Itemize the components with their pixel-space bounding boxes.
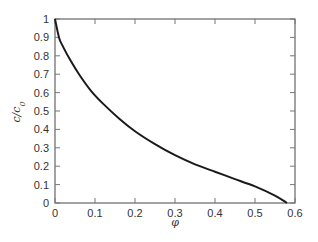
y-tick-label: 0.3: [34, 142, 49, 154]
y-tick-label: 0.4: [34, 123, 49, 135]
plot-frame: [55, 19, 295, 203]
y-tick-label: 0.6: [34, 87, 49, 99]
chart: 00.10.20.30.40.50.6 00.10.20.30.40.50.60…: [0, 0, 318, 242]
x-tick-label: 0.4: [207, 207, 222, 219]
y-tick-label: 0.1: [34, 179, 49, 191]
x-tick-label: 0.5: [247, 207, 262, 219]
plot-border: [55, 19, 295, 203]
x-tick-label: 0.2: [127, 207, 142, 219]
y-tick-label: 0: [43, 197, 49, 209]
y-tick-label: 0.9: [34, 31, 49, 43]
y-tick-label: 0.8: [34, 50, 49, 62]
x-tick-label: 0.1: [87, 207, 102, 219]
y-tick-label: 0.5: [34, 105, 49, 117]
y-tick-label: 1: [43, 13, 49, 25]
x-tick-label: 0.6: [287, 207, 302, 219]
y-tick-labels: 00.10.20.30.40.50.60.70.80.91: [34, 13, 49, 209]
x-tick-label: 0: [52, 207, 58, 219]
y-tick-label: 0.2: [34, 160, 49, 172]
data-curve: [55, 19, 287, 203]
axis-ticks: [55, 19, 295, 203]
x-axis-label: φ: [171, 216, 179, 229]
y-axis-label: c/c0: [10, 101, 27, 122]
y-tick-label: 0.7: [34, 68, 49, 80]
